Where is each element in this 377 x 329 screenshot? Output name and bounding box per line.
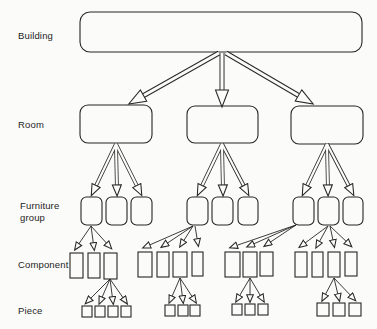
edge-c32-p1 [237,278,250,300]
edge-room2-fg6 [222,144,247,192]
edge-room2-fg5 [222,144,223,192]
component-box-2-3 [173,252,187,277]
room-box-1 [80,105,152,143]
component-box-2-4 [192,252,203,276]
piece-box-4-3 [349,303,361,316]
component-box-4-1 [295,252,307,277]
component-box-1-3 [104,253,117,279]
component-box-1-2 [88,253,100,278]
edge-fg8-c2 [317,226,328,246]
edge-fg7-c2 [249,225,296,246]
edge-fg8-c1 [301,226,328,246]
component-box-2-1 [138,252,152,277]
piece-box-1-4 [121,306,131,317]
piece-box-1-1 [82,306,92,317]
component-box-3-3 [260,252,273,276]
furniture-group-level-label: Furniture group [20,200,74,224]
furniture-box-4 [187,197,208,225]
edge-room3-fg8 [327,144,328,192]
edge-room3-fg7 [304,144,327,192]
edge-fg7-c3 [266,225,296,245]
furniture-box-3 [131,197,152,225]
component-level-label: Component [18,259,68,271]
building-box [80,12,362,52]
furniture-box-8 [318,197,339,225]
piece-box-2-3 [190,305,200,316]
component-box-4-2 [312,252,323,277]
hierarchy-diagram-figure: Building Room Furniture group Component … [0,0,377,329]
edge-c43-p1 [323,278,334,299]
furniture-box-2 [106,197,127,225]
component-box-1-1 [70,253,83,278]
room-box-3 [291,106,363,144]
component-box-3-1 [225,252,240,277]
edge-c43-p3 [334,278,354,299]
piece-box-4-2 [333,303,345,316]
piece-box-3-2 [245,304,255,315]
piece-box-2-2 [178,305,188,316]
piece-box-3-3 [258,304,268,315]
piece-box-3-1 [232,304,242,315]
piece-level-label: Piece [18,305,43,317]
diagram-svg [0,0,377,329]
edge-room1-fg3 [116,144,140,192]
edge-building-room1 [134,53,219,101]
room-box-2 [187,106,258,143]
edge-room3-fg9 [327,144,352,192]
edge-fg4-c2 [163,226,193,246]
edge-fg4-c4 [195,226,198,244]
edge-c32-p3 [250,278,263,300]
edge-building-room3 [226,53,308,101]
furniture-box-6 [238,197,258,225]
edge-room1-fg1 [93,144,116,192]
piece-box-1-2 [95,306,105,317]
edge-c23-p1 [170,278,180,301]
edge-c13-p2 [100,279,110,302]
piece-box-4-1 [317,303,329,316]
component-box-4-4 [345,252,357,276]
piece-box-1-3 [108,306,118,317]
component-box-2-2 [157,252,169,277]
furniture-box-9 [343,197,363,225]
furniture-box-5 [212,197,233,225]
edge-c13-p1 [87,279,110,302]
component-box-3-2 [243,252,257,277]
edge-fg1-c1 [76,226,91,248]
piece-box-2-1 [165,305,175,316]
edge-fg4-c1 [145,226,193,247]
edge-room1-fg2 [116,144,117,192]
edge-fg7-c1 [232,225,296,247]
room-level-label: Room [18,119,44,131]
component-box-4-3 [328,252,340,277]
furniture-box-7 [293,197,314,225]
furniture-box-1 [81,197,102,225]
building-level-label: Building [18,30,53,42]
edge-room2-fg4 [199,144,222,192]
